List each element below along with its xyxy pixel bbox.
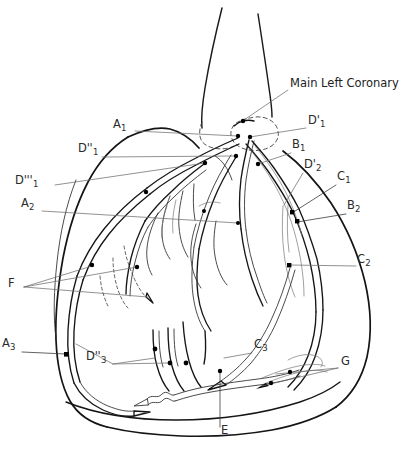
label-d-prime-1-base: D' (308, 113, 320, 127)
label-d-dprime-3: D''3 (86, 351, 106, 363)
marker-d1-tprime (203, 161, 207, 165)
diagonal-twig-4 (193, 184, 195, 220)
label-d-dprime-3-base: D'' (86, 349, 101, 363)
marker-a2 (144, 190, 148, 194)
pulmonary-trunk-left-edge (202, 8, 222, 128)
label-c3-sub: 3 (262, 343, 267, 353)
marker-a2-mid (202, 209, 206, 213)
septal-perforators-group (100, 246, 153, 308)
diagonal-d1-tprime-mid (126, 221, 145, 294)
lcx-c2-segment-a (288, 312, 316, 387)
lcx-b2-wall-b (299, 209, 323, 310)
lad-a2-segment-wall-b (83, 194, 150, 280)
leader-f-1 (24, 287, 148, 297)
label-a1-sub: 1 (121, 123, 126, 133)
leader-d2-prime (284, 173, 303, 205)
label-c3: C3 (254, 339, 267, 351)
label-d-tprime-1: D'''1 (15, 175, 38, 187)
label-e: E (221, 425, 228, 437)
label-b2-base: B (347, 198, 355, 212)
lcx-c2-segment-b (294, 310, 323, 390)
label-d-tprime-1-sub: 1 (33, 179, 38, 189)
label-b1-sub: 1 (300, 143, 305, 153)
label-c1-sub: 1 (345, 175, 350, 185)
leader-c1 (292, 185, 336, 213)
diagonal-twig-2 (179, 191, 188, 257)
coronary-diagram: Main Left Coronary A1 D'1 D''1 B1 D'''1 … (0, 0, 402, 452)
marker-diagonal-mid (236, 221, 240, 225)
marker-a1 (236, 134, 240, 138)
marker-c1 (290, 210, 294, 214)
lv-lateral-contour (54, 180, 76, 338)
left-heart-border (56, 137, 128, 427)
label-d-tprime-1-base: D''' (15, 173, 33, 187)
lad-a3-segment-wall-b (74, 280, 83, 382)
label-main-left-coronary: Main Left Coronary (290, 78, 399, 90)
marker-d3-b (168, 361, 173, 366)
marker-main-lca (241, 119, 245, 123)
septal-perforator-2 (113, 258, 128, 308)
label-c2: C2 (357, 254, 370, 266)
marker-c2 (287, 263, 291, 267)
septal-perforator-1 (124, 246, 146, 297)
distal-g-branch-a (262, 364, 325, 378)
marker-g-a (288, 370, 292, 374)
label-d-prime-1-sub: 1 (320, 119, 325, 129)
label-c1: C1 (337, 171, 350, 183)
heart-outline-group (54, 128, 370, 436)
marker-b1 (256, 162, 260, 166)
pda-e-proximal-wave-b (148, 398, 175, 405)
diagonal-d1-tprime-mid-b (130, 227, 148, 296)
marker-f-a (90, 263, 94, 267)
great-vessels-group (200, 8, 279, 151)
marker-b2 (295, 219, 299, 223)
label-d-prime-1: D'1 (308, 115, 325, 127)
diagonal-d3-dprime-a-inner (159, 331, 163, 367)
marker-a3 (64, 352, 69, 357)
label-g: G (341, 356, 350, 368)
label-c1-base: C (337, 169, 345, 183)
label-a3: A3 (2, 338, 15, 350)
pda-e-proximal-wave (147, 392, 174, 399)
label-a2-base: A (21, 196, 29, 210)
lad-apical-arrow-tip (134, 411, 150, 416)
septal-cleft-right (214, 221, 227, 285)
leader-a3 (22, 352, 66, 354)
diagonal-twig-3 (147, 213, 158, 275)
label-f-base: F (8, 276, 14, 290)
diagonal-d1-tprime (145, 164, 204, 221)
label-a2-sub: 2 (29, 202, 34, 212)
d2-prime-branch-group (282, 205, 295, 297)
leader-b2 (297, 214, 346, 222)
marker-e (218, 369, 222, 373)
label-d-prime-2-base: D' (304, 157, 316, 171)
diagonal-d1-tprime-b (148, 170, 206, 227)
pda-e-tail-arrow (134, 399, 148, 406)
diagonal-branches-group (126, 140, 267, 391)
label-g-base: G (341, 354, 350, 368)
right-heart-border (283, 151, 370, 407)
label-b1-base: B (292, 137, 300, 151)
diagonal-d1-prime (240, 140, 250, 229)
diagonal-twig-6 (162, 206, 167, 238)
label-f: F (8, 278, 14, 290)
label-c3-base: C (254, 337, 262, 351)
diagonal-d1-prime-distal (241, 229, 263, 306)
marker-d3-a (153, 347, 158, 352)
label-main-left-coronary-text: Main Left Coronary (290, 76, 399, 90)
lad-apical-termination-inner (80, 382, 134, 411)
marker-d3-c (184, 361, 189, 366)
label-e-base: E (221, 423, 228, 437)
diagonal-d3-dprime-b-inner (174, 329, 178, 366)
label-d-prime-2-sub: 2 (316, 163, 321, 173)
leader-main-left-coronary (244, 90, 288, 120)
diagonal-twig-5 (173, 200, 176, 233)
marker-g-b (269, 381, 273, 385)
pda-e-vessel-b (175, 376, 300, 401)
diagonal-d1-dprime-tip (204, 331, 206, 364)
label-b2: B2 (347, 200, 360, 212)
marker-d1-prime (248, 135, 252, 139)
label-c2-sub: 2 (365, 258, 370, 268)
diagonal-twig-1 (162, 196, 170, 259)
label-d-dprime-1-base: D'' (78, 141, 93, 155)
